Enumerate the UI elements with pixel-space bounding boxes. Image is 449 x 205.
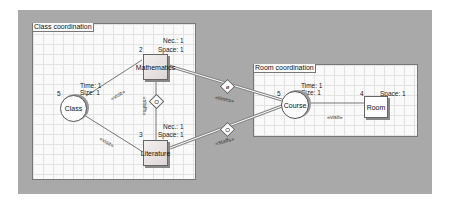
mathematics-node[interactable]: Mathematics — [143, 54, 168, 80]
mathematics-count: 2 — [139, 46, 143, 53]
class-size: Size: 1 — [80, 89, 100, 96]
course-count: 5 — [277, 90, 281, 97]
literature-nec: Nec.: 1 — [163, 123, 184, 130]
class-time: Time: 1 — [80, 82, 101, 89]
literature-node[interactable]: Literature — [143, 140, 168, 166]
edge-label-course-room: «visit» — [327, 114, 343, 120]
empty-set-icon: ø — [223, 82, 232, 91]
zero-icon: O — [152, 97, 161, 106]
class-node[interactable]: Class — [60, 95, 87, 122]
course-node[interactable]: Course — [281, 91, 309, 119]
room-node[interactable]: Room — [364, 96, 388, 118]
panel-title: Class coordination — [33, 23, 94, 32]
room-coordination-panel[interactable]: Room coordination — [253, 64, 418, 137]
literature-space: Space: 1 — [158, 131, 184, 138]
mathematics-nec: Nec.: 1 — [163, 37, 184, 44]
mathematics-space: Space: 1 — [158, 46, 184, 53]
panel-title: Room coordination — [254, 64, 316, 73]
literature-count: 3 — [139, 131, 143, 138]
course-time: Time: 1 — [301, 82, 322, 89]
zero-icon: O — [223, 125, 232, 134]
class-count: 5 — [57, 90, 61, 97]
edge-label-mathematics-literature: «staffs» — [142, 96, 148, 115]
